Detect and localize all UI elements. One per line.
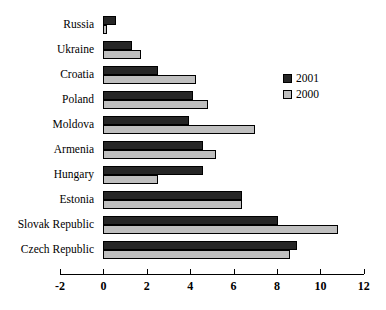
category-label: Poland	[0, 93, 94, 106]
category-label: Croatia	[0, 68, 94, 81]
x-tick-label: 6	[214, 279, 254, 294]
chart-legend: 20012000	[283, 68, 319, 100]
bar-2000-russia	[103, 25, 106, 34]
x-tick-mark	[320, 269, 321, 274]
bar-2001-ukraine	[103, 41, 131, 50]
category-label: Hungary	[0, 168, 94, 181]
x-tick-mark	[60, 269, 61, 274]
category-label: Armenia	[0, 143, 94, 156]
bar-2000-czech-republic	[103, 250, 290, 259]
bar-2000-moldova	[103, 125, 255, 134]
category-row: Poland	[0, 89, 386, 114]
bar-2001-moldova	[103, 116, 189, 125]
bar-2001-estonia	[103, 191, 242, 200]
bar-chart: RussiaUkraineCroatiaPolandMoldovaArmenia…	[0, 0, 386, 310]
x-tick-label: 4	[170, 279, 210, 294]
category-row: Czech Republic	[0, 239, 386, 264]
legend-label: 2001	[296, 72, 319, 84]
x-tick-label: -2	[40, 279, 80, 294]
category-row: Russia	[0, 14, 386, 39]
legend-swatch-icon	[283, 74, 292, 83]
category-label: Czech Republic	[0, 243, 94, 256]
bar-2001-hungary	[103, 166, 203, 175]
category-label: Moldova	[0, 118, 94, 131]
x-tick-mark	[234, 269, 235, 274]
bar-2000-hungary	[103, 175, 157, 184]
x-tick-mark	[103, 269, 104, 274]
x-tick-label: 12	[344, 279, 384, 294]
bar-2000-armenia	[103, 150, 216, 159]
category-row: Ukraine	[0, 39, 386, 64]
bar-2001-croatia	[103, 66, 157, 75]
category-row: Croatia	[0, 64, 386, 89]
category-label: Slovak Republic	[0, 218, 94, 231]
x-tick-mark	[364, 269, 365, 274]
x-tick-label: 0	[83, 279, 123, 294]
x-tick-label: 2	[127, 279, 167, 294]
bar-2001-czech-republic	[103, 241, 296, 250]
x-tick-mark	[277, 269, 278, 274]
plot-area: RussiaUkraineCroatiaPolandMoldovaArmenia…	[0, 0, 386, 310]
x-axis-line	[60, 274, 364, 275]
bar-2000-poland	[103, 100, 207, 109]
bar-2001-armenia	[103, 141, 203, 150]
legend-swatch-icon	[283, 90, 292, 99]
category-label: Ukraine	[0, 43, 94, 56]
category-label: Estonia	[0, 193, 94, 206]
category-row: Armenia	[0, 139, 386, 164]
category-row: Estonia	[0, 189, 386, 214]
x-tick-label: 8	[257, 279, 297, 294]
bar-2001-russia	[103, 16, 116, 25]
bar-2001-poland	[103, 91, 193, 100]
bar-2000-estonia	[103, 200, 242, 209]
legend-item[interactable]: 2001	[283, 68, 319, 84]
category-label: Russia	[0, 18, 94, 31]
category-row: Hungary	[0, 164, 386, 189]
category-row: Slovak Republic	[0, 214, 386, 239]
bar-2000-ukraine	[103, 50, 141, 59]
x-tick-label: 10	[300, 279, 340, 294]
legend-label: 2000	[296, 88, 319, 100]
bar-2001-slovak-republic	[103, 216, 278, 225]
x-tick-mark	[190, 269, 191, 274]
bar-2000-slovak-republic	[103, 225, 337, 234]
category-row: Moldova	[0, 114, 386, 139]
x-tick-mark	[147, 269, 148, 274]
legend-item[interactable]: 2000	[283, 84, 319, 100]
bar-2000-croatia	[103, 75, 195, 84]
